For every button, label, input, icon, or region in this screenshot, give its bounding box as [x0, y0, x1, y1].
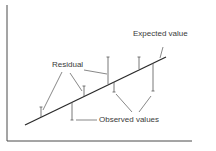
- leader-observed-2: [116, 94, 132, 112]
- leader-residual-2: [70, 73, 82, 91]
- leader-observed-3: [139, 96, 151, 112]
- leader-residual-1: [43, 72, 62, 110]
- observed-values-label: Observed values: [99, 116, 159, 124]
- residual-diagram: [0, 0, 216, 151]
- leader-expected-value: [160, 47, 163, 58]
- residual-label: Residual: [52, 61, 83, 69]
- leader-residual-3: [84, 70, 107, 74]
- leader-lines: [43, 47, 163, 120]
- expected-value-label: Expected value: [133, 30, 188, 38]
